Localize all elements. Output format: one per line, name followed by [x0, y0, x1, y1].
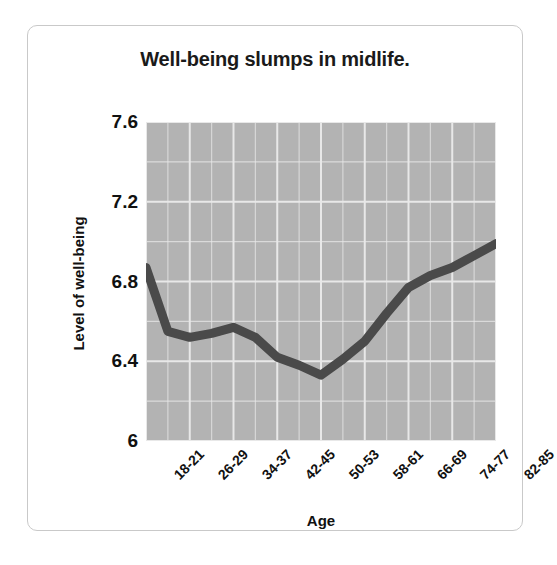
- x-tick-label: 74-77: [477, 446, 514, 483]
- x-axis-tick-labels: 18-2126-2934-3742-4550-5358-6166-6974-77…: [146, 444, 496, 506]
- y-tick-label: 6.8: [112, 271, 138, 293]
- figure-frame: Well-being slumps in midlife. Level of w…: [27, 25, 523, 531]
- y-tick-label: 6.4: [112, 350, 138, 372]
- x-tick-label: 34-37: [258, 446, 295, 483]
- x-tick-label: 26-29: [214, 446, 251, 483]
- x-tick-label: 50-53: [345, 446, 382, 483]
- x-tick-label: 18-21: [170, 446, 207, 483]
- x-tick-label: 82-85: [520, 446, 557, 483]
- x-tick-label: 66-69: [433, 446, 470, 483]
- y-tick-label: 7.6: [112, 111, 138, 133]
- y-axis-title-text: Level of well-being: [70, 216, 87, 350]
- y-tick-label: 6: [127, 430, 138, 452]
- x-tick-label: 58-61: [389, 446, 426, 483]
- x-tick-label: 42-45: [302, 446, 339, 483]
- plot-area: [146, 122, 496, 441]
- x-axis-title: Age: [146, 512, 496, 529]
- y-tick-label: 7.2: [112, 191, 138, 213]
- y-axis-tick-labels: 66.46.87.27.6: [86, 122, 138, 441]
- data-line-series: [146, 122, 496, 441]
- chart-title: Well-being slumps in midlife.: [28, 48, 522, 71]
